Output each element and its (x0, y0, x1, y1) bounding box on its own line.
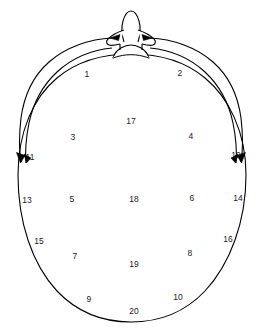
region-label-19: 19 (129, 260, 139, 269)
region-label-5: 5 (70, 195, 75, 204)
region-label-3: 3 (71, 133, 76, 142)
region-label-1: 1 (85, 70, 90, 79)
region-label-6: 6 (190, 194, 195, 203)
region-label-16: 16 (223, 235, 233, 244)
region-label-17: 17 (126, 117, 136, 126)
region-label-15: 15 (34, 237, 44, 246)
region-label-14: 14 (233, 194, 243, 203)
head-outline-svg (0, 0, 261, 331)
region-label-11: 11 (25, 153, 34, 162)
region-label-2: 2 (178, 69, 183, 78)
head-outline-path (18, 54, 246, 322)
region-label-18: 18 (129, 195, 139, 204)
head-region-diagram: 1 2 3 4 5 6 7 8 9 10 11 12 13 14 15 16 1… (0, 0, 261, 331)
region-label-13: 13 (22, 196, 32, 205)
region-label-20: 20 (129, 307, 139, 316)
nose-outline-path (122, 11, 140, 42)
region-label-10: 10 (173, 293, 183, 302)
region-label-12: 12 (231, 151, 241, 160)
region-label-7: 7 (73, 252, 78, 261)
region-label-4: 4 (189, 132, 194, 141)
region-label-9: 9 (87, 295, 92, 304)
region-label-8: 8 (188, 249, 193, 258)
